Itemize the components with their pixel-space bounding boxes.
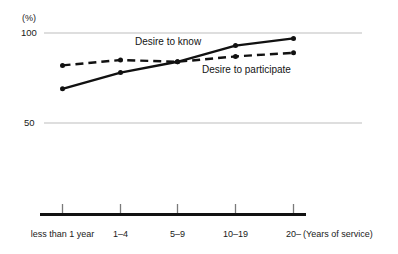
data-point bbox=[60, 86, 65, 91]
data-point bbox=[118, 58, 123, 63]
y-tick-label-50: 50 bbox=[24, 118, 35, 128]
data-point bbox=[233, 54, 238, 59]
data-point bbox=[291, 50, 296, 55]
series-annotation-desire-to-participate: Desire to participate bbox=[202, 65, 291, 75]
data-point bbox=[175, 59, 180, 64]
data-point bbox=[118, 70, 123, 75]
data-point bbox=[233, 43, 238, 48]
series-annotation-desire-to-know: Desire to know bbox=[135, 37, 201, 47]
y-axis-unit-label: (%) bbox=[22, 14, 36, 23]
x-axis-caption: (Years of service) bbox=[303, 230, 373, 239]
line-chart: (%) 100 50 Desire to know Desire to part… bbox=[0, 0, 398, 254]
data-point bbox=[291, 36, 296, 41]
x-axis bbox=[40, 204, 306, 215]
y-tick-label-100: 100 bbox=[21, 28, 37, 38]
data-point bbox=[60, 63, 65, 68]
gridlines bbox=[44, 33, 362, 123]
